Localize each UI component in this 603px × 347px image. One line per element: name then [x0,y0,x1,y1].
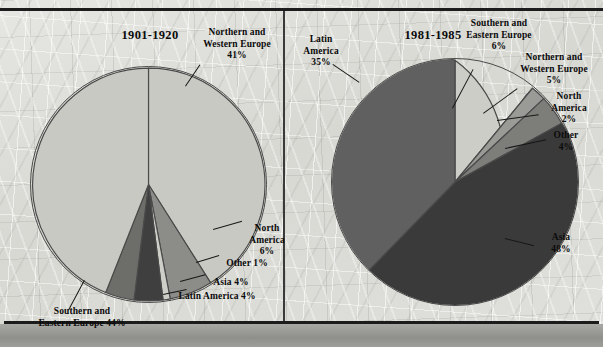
left-label-north-america: North America 6% [239,223,295,258]
right-label-asia: Asia 48% [536,232,586,255]
left-label-se-europe: Southern and Eastern Europe 44% [16,306,148,329]
left-label-asia: Asia 4% [200,277,262,289]
right-label-other: Other 4% [541,130,591,153]
figure-canvas: 1901-1920 Northern and Western Europe 41… [0,0,603,347]
left-label-latin-america: Latin America 4% [163,291,271,303]
right-label-latin-america: Latin America 35% [290,34,352,69]
top-border-rule [0,8,603,11]
left-label-nw-europe: Northern and Western Europe 41% [183,27,291,62]
right-label-nw-europe: Northern and Western Europe 5% [505,52,603,87]
right-label-se-europe: Southern and Eastern Europe 6% [448,18,550,53]
right-label-north-america: North America 2% [540,91,598,126]
left-label-other: Other 1% [214,258,280,270]
